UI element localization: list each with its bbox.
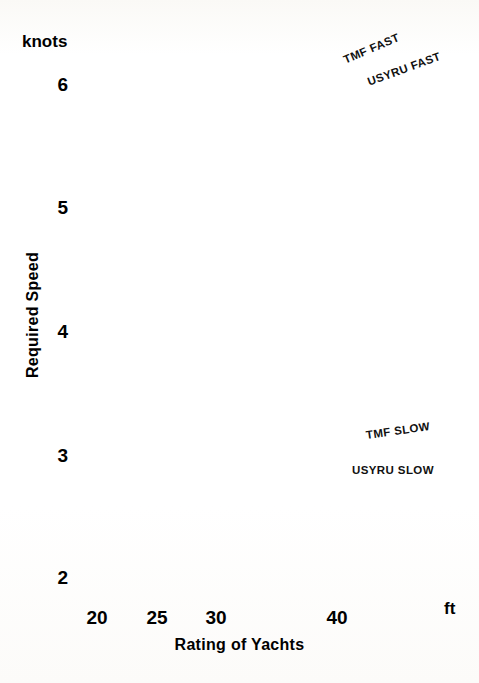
- x-tick-label-40: 40: [317, 608, 357, 627]
- x-tick-label-25: 25: [137, 608, 177, 627]
- curve-tmf-fast: [84, 22, 455, 253]
- chart-figure: knots 6 5 4 3 2 20 25 30 40 ft Rating of…: [0, 0, 479, 683]
- y-axis-unit-label: knots: [22, 33, 67, 50]
- y-tick-label-3: 3: [42, 446, 68, 465]
- x-axis-unit-label: ft: [444, 600, 455, 617]
- axis-lines: [84, 20, 466, 601]
- y-axis-title: Required Speed: [25, 215, 41, 415]
- curve-label-usyru-slow: USYRU SLOW: [352, 464, 434, 476]
- y-tick-label-4: 4: [42, 322, 68, 341]
- x-axis-title: Rating of Yachts: [0, 637, 479, 653]
- horizontal-gridlines: [84, 84, 455, 577]
- chart-plot-area: [0, 0, 479, 683]
- y-tick-marks: [76, 84, 84, 577]
- x-tick-label-20: 20: [77, 608, 117, 627]
- x-tick-label-30: 30: [196, 608, 236, 627]
- y-tick-label-6: 6: [42, 75, 68, 94]
- vertical-gridlines: [97, 20, 337, 600]
- y-tick-label-2: 2: [42, 568, 68, 587]
- y-tick-label-5: 5: [42, 198, 68, 217]
- curve-tmf-slow: [84, 430, 455, 538]
